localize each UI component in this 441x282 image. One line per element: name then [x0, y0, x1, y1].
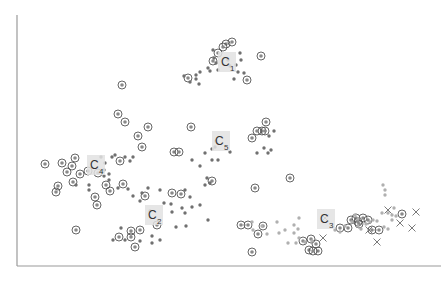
point	[194, 77, 197, 80]
point	[190, 158, 193, 161]
point	[206, 218, 209, 221]
point	[184, 224, 187, 227]
point	[131, 194, 134, 197]
point	[150, 241, 153, 244]
point	[251, 228, 254, 231]
ringed-point	[262, 118, 270, 126]
point	[107, 178, 110, 181]
point	[111, 238, 114, 241]
point	[364, 222, 367, 225]
cross-point	[320, 235, 327, 242]
point	[390, 218, 393, 221]
point	[380, 211, 383, 214]
point	[206, 66, 209, 69]
point	[239, 58, 242, 61]
point	[356, 224, 359, 227]
point	[381, 183, 384, 186]
svg-text:1: 1	[230, 64, 235, 73]
cross-point	[397, 220, 404, 227]
point	[198, 164, 201, 167]
point	[116, 186, 119, 189]
point	[212, 56, 215, 59]
point	[138, 239, 141, 242]
cluster-label-c2: C2	[145, 205, 163, 226]
ringed-point	[63, 168, 71, 176]
point	[269, 148, 272, 151]
ringed-point	[114, 110, 122, 118]
point	[275, 220, 278, 223]
cluster-label-c5: C5	[212, 131, 230, 152]
point	[292, 231, 295, 234]
point	[356, 217, 359, 220]
ringed-point	[254, 230, 262, 238]
ringed-point	[41, 160, 49, 168]
point	[110, 155, 113, 158]
point	[242, 71, 245, 74]
point	[188, 195, 191, 198]
point	[368, 220, 371, 223]
point	[87, 188, 90, 191]
point	[119, 226, 122, 229]
point	[303, 240, 306, 243]
ringed-point	[71, 154, 79, 162]
point	[267, 134, 270, 137]
cluster-label-c1: C1	[218, 52, 236, 73]
point	[359, 227, 362, 230]
ringed-point	[118, 81, 126, 89]
ringed-point	[102, 181, 110, 189]
svg-text:C: C	[320, 212, 329, 226]
point	[140, 191, 143, 194]
point	[131, 155, 134, 158]
ringed-point	[286, 174, 294, 182]
point	[255, 151, 258, 154]
point	[214, 61, 217, 64]
cluster-label-c3: C3	[317, 209, 335, 230]
cross-point	[409, 225, 416, 232]
point	[260, 224, 263, 227]
point	[283, 228, 286, 231]
svg-text:C: C	[90, 158, 99, 172]
point	[126, 187, 129, 190]
ringed-point	[144, 123, 152, 131]
point	[113, 153, 116, 156]
point	[216, 158, 219, 161]
point	[238, 51, 241, 54]
svg-text:C: C	[221, 55, 230, 69]
point	[123, 238, 126, 241]
ringed-point	[257, 52, 265, 60]
point	[266, 151, 269, 154]
ringed-point	[121, 118, 129, 126]
point	[265, 232, 268, 235]
point	[211, 48, 214, 51]
point	[343, 224, 346, 227]
ringed-point	[251, 184, 259, 192]
ringed-point	[187, 123, 195, 131]
point	[183, 211, 186, 214]
point	[208, 69, 211, 72]
point	[210, 158, 213, 161]
point	[162, 201, 165, 204]
ringed-point	[248, 134, 256, 142]
point	[169, 202, 172, 205]
point	[236, 70, 239, 73]
ringed-point	[93, 201, 101, 209]
point	[353, 213, 356, 216]
ringed-point	[168, 189, 176, 197]
point	[197, 82, 200, 85]
ringed-point	[127, 227, 135, 235]
point	[272, 129, 275, 132]
svg-text:C: C	[148, 208, 157, 222]
point	[190, 205, 193, 208]
ringed-point	[115, 233, 123, 241]
point	[390, 213, 393, 216]
series-dark	[74, 48, 275, 244]
svg-text:5: 5	[224, 143, 229, 152]
ringed-point	[175, 148, 183, 156]
point	[146, 186, 149, 189]
ringed-point	[106, 187, 114, 195]
point	[262, 146, 265, 149]
point	[297, 236, 300, 239]
ringed-point	[76, 170, 84, 178]
point	[128, 159, 131, 162]
point	[203, 183, 206, 186]
